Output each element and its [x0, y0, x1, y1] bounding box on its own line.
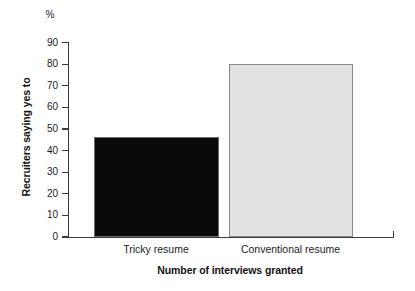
y-axis-tick [62, 215, 69, 216]
y-axis-tick [62, 107, 69, 108]
y-axis-tick-label: 30 [28, 167, 58, 177]
y-axis-tick-label: 90 [28, 38, 58, 48]
y-axis-tick [62, 64, 69, 65]
y-axis-tick [62, 42, 69, 43]
y-axis-tick-label: 20 [28, 189, 58, 199]
x-axis-title: Number of interviews granted [60, 264, 400, 276]
bar-chart: % Recruiters saying yes to 0102030405060… [0, 0, 415, 291]
y-axis-unit-label: % [38, 9, 62, 21]
y-axis-tick-label: 60 [28, 102, 58, 112]
bar-tricky-resume [94, 137, 219, 237]
y-axis-tick-label: 80 [28, 59, 58, 69]
x-axis-category-label: Conventional resume [199, 243, 383, 255]
x-axis-end-tick [393, 231, 394, 237]
y-axis-tick [62, 193, 69, 194]
y-axis-tick [62, 236, 69, 237]
y-axis-tick [62, 150, 69, 151]
bar-conventional-resume [229, 64, 353, 237]
y-axis-tick-label: 70 [28, 81, 58, 91]
y-axis-tick-label: 50 [28, 124, 58, 134]
y-axis-tick-label: 10 [28, 210, 58, 220]
y-axis-line [68, 42, 69, 238]
y-axis-tick [62, 85, 69, 86]
y-axis-tick [62, 128, 69, 129]
y-axis-tick-label: 40 [28, 146, 58, 156]
y-axis-tick [62, 172, 69, 173]
y-axis-tick-label: 0 [28, 232, 58, 242]
